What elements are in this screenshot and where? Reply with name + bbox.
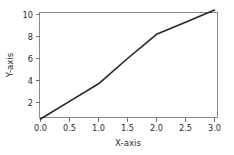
y-tick-label-6: 6 [28,54,33,64]
plot-background [39,12,218,118]
x-tick-label-4: 2.0 [150,123,163,133]
y-axis-tick-labels: 10 8 6 4 2 [23,10,33,108]
x-axis-title: X-axis [115,138,141,148]
y-axis-title: Y-axis [5,52,15,78]
y-tick-label-4: 4 [28,76,33,86]
x-tick-label-0: 0.0 [34,123,47,133]
x-tick-label-3: 1.5 [121,123,134,133]
y-tick-label-10: 10 [23,10,33,20]
x-tick-label-1: 0.5 [63,123,76,133]
y-tick-label-2: 2 [28,98,33,108]
x-tick-label-6: 3.0 [208,123,221,133]
plot-svg: 10 8 6 4 2 0.0 0.5 1.0 1.5 2.0 2.5 3.0 X… [0,0,234,155]
x-tick-label-5: 2.5 [179,123,192,133]
x-axis-tick-labels: 0.0 0.5 1.0 1.5 2.0 2.5 3.0 [34,123,221,133]
y-tick-label-8: 8 [28,32,33,42]
x-axis-ticks [41,118,215,122]
x-tick-label-2: 1.0 [92,123,105,133]
chart-figure: 10 8 6 4 2 0.0 0.5 1.0 1.5 2.0 2.5 3.0 X… [0,0,234,155]
y-axis-ticks [36,15,40,103]
